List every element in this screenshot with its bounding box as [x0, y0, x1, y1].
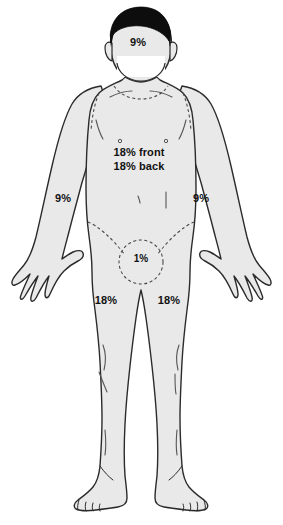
groin-percentage-label: 1%	[124, 252, 158, 265]
rule-of-nines-diagram: 9% 18% front 18% back 9% 9% 1% 18% 18%	[0, 0, 283, 525]
torso-front-label: 18% front	[103, 145, 175, 159]
torso-and-legs-shape	[74, 62, 207, 511]
face-mask-rectangle	[117, 56, 165, 77]
torso-percentage-label: 18% front 18% back	[103, 145, 175, 173]
head-percentage-label: 9%	[117, 36, 159, 49]
torso-back-label: 18% back	[103, 159, 175, 173]
nipple-right-marker	[164, 139, 167, 142]
arm-left-percentage-label: 9%	[49, 192, 77, 205]
ear-right-shape	[170, 42, 177, 61]
nipple-left-marker	[118, 139, 121, 142]
leg-left-percentage-label: 18%	[89, 294, 123, 307]
leg-right-percentage-label: 18%	[152, 294, 186, 307]
arm-right-percentage-label: 9%	[187, 192, 215, 205]
